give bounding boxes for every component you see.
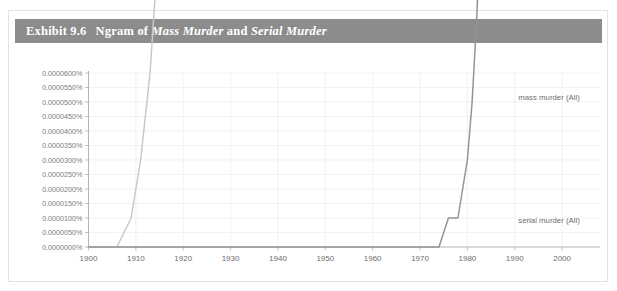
series-label: mass murder (All) — [518, 93, 580, 102]
series-line — [89, 0, 601, 247]
y-tick-label: 0.0000450% — [42, 112, 83, 121]
y-tick-label: 0.0000350% — [42, 141, 83, 150]
x-axis-tick-labels: 1900191019201930194019501960197019801990… — [80, 254, 572, 263]
y-tick-label: 0.0000600% — [42, 69, 83, 78]
x-tick-label: 1950 — [316, 254, 334, 263]
x-tick-label: 1920 — [174, 254, 192, 263]
y-tick-label: 0.0000200% — [42, 185, 83, 194]
chart-container: 0.0000000%0.0000050%0.0000100%0.0000150%… — [0, 0, 617, 291]
x-tick-label: 1940 — [269, 254, 287, 263]
y-tick-label: 0.0000400% — [42, 127, 83, 136]
exhibit-figure: Exhibit 9.6Ngram of Mass Murder and Seri… — [0, 0, 617, 291]
ngram-line-chart: 0.0000000%0.0000050%0.0000100%0.0000150%… — [0, 0, 617, 291]
y-tick-label: 0.0000100% — [42, 214, 83, 223]
y-tick-label: 0.0000500% — [42, 98, 83, 107]
y-axis-tick-labels: 0.0000000%0.0000050%0.0000100%0.0000150%… — [42, 69, 83, 252]
y-tick-label: 0.0000000% — [42, 243, 83, 252]
series-inline-labels: mass murder (All)serial murder (All) — [518, 93, 580, 225]
y-tick-label: 0.0000150% — [42, 199, 83, 208]
y-tick-label: 0.0000250% — [42, 170, 83, 179]
y-axis — [85, 71, 89, 247]
x-tick-label: 1900 — [80, 254, 98, 263]
y-tick-label: 0.0000300% — [42, 156, 83, 165]
x-tick-label: 1990 — [506, 254, 524, 263]
y-tick-label: 0.0000550% — [42, 83, 83, 92]
x-tick-label: 1910 — [127, 254, 145, 263]
x-tick-label: 1980 — [458, 254, 476, 263]
series-line — [89, 0, 601, 247]
x-tick-label: 1970 — [411, 254, 429, 263]
data-series-lines — [89, 0, 601, 247]
x-tick-label: 1930 — [222, 254, 240, 263]
x-tick-label: 2000 — [553, 254, 571, 263]
y-tick-label: 0.0000050% — [42, 228, 83, 237]
series-label: serial murder (All) — [518, 216, 580, 225]
x-tick-label: 1960 — [364, 254, 382, 263]
